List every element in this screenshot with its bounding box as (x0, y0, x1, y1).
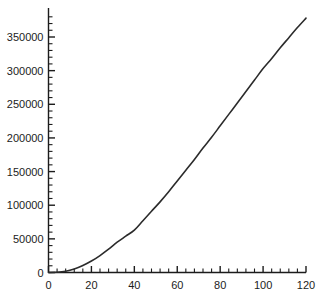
x-axis-tick-label: 120 (297, 279, 315, 291)
y-axis-tick-label: 100000 (7, 199, 44, 211)
chart-container: 0500001000001500002000002500003000003500… (0, 0, 321, 298)
line-chart: 0500001000001500002000002500003000003500… (0, 0, 321, 298)
x-axis-tick-label: 40 (128, 279, 140, 291)
y-axis-tick-label: 150000 (7, 166, 44, 178)
x-axis-tick-label: 20 (85, 279, 97, 291)
y-axis-tick-label: 200000 (7, 132, 44, 144)
x-axis-tick-label: 100 (254, 279, 272, 291)
y-axis-tick-label: 50000 (13, 233, 44, 245)
y-axis-tick-label: 300000 (7, 65, 44, 77)
x-axis-tick-label: 0 (45, 279, 51, 291)
y-axis-tick-label: 0 (37, 267, 43, 279)
y-axis-tick-label: 250000 (7, 98, 44, 110)
y-axis-tick-label: 350000 (7, 31, 44, 43)
x-axis-tick-label: 60 (171, 279, 183, 291)
x-axis-tick-label: 80 (214, 279, 226, 291)
data-series-line (49, 18, 307, 272)
